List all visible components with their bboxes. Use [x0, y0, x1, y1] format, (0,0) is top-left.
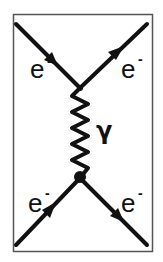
- label-photon-gamma: γ: [96, 119, 112, 143]
- photon-propagator: [72, 88, 88, 178]
- feynman-diagram: [0, 0, 163, 262]
- label-charge-top-left: -: [47, 54, 52, 68]
- label-electron-top-left: e: [30, 56, 44, 82]
- vertex-bottom: [74, 171, 86, 183]
- label-charge-top-right: -: [138, 52, 143, 66]
- electron-line-top-right: [80, 24, 147, 88]
- label-electron-bottom-right: e: [121, 190, 135, 216]
- label-charge-bottom-left: -: [45, 186, 50, 200]
- label-charge-bottom-right: -: [138, 186, 143, 200]
- electron-line-bottom-right: [80, 178, 147, 245]
- label-electron-bottom-left: e: [28, 190, 42, 216]
- vertex-top: [77, 85, 83, 91]
- label-electron-top-right: e: [121, 56, 135, 82]
